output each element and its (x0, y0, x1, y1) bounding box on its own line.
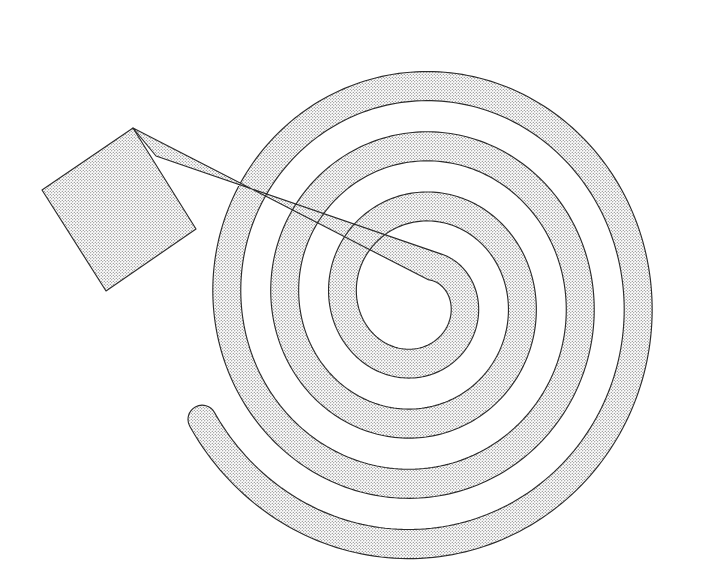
spiral-figure (0, 0, 703, 565)
figure-canvas (0, 0, 703, 565)
spiral-band-shape (133, 72, 652, 559)
spiral-group (133, 72, 652, 559)
